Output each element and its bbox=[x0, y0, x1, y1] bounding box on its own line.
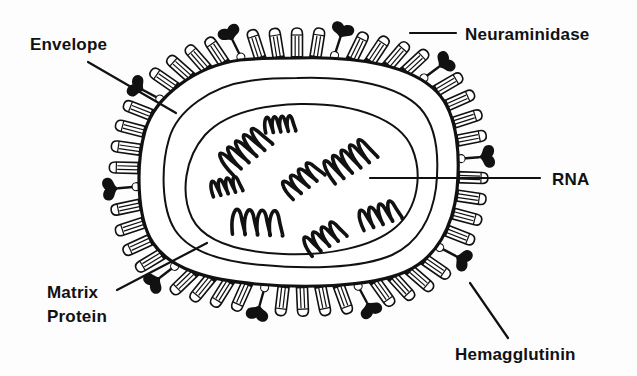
neuraminidase-spike bbox=[102, 175, 143, 201]
label-matrix-protein-line2: Protein bbox=[47, 307, 107, 326]
label-hemagglutinin: Hemagglutinin bbox=[455, 345, 576, 364]
label-rna: RNA bbox=[552, 170, 589, 189]
hemagglutinin-shading-line bbox=[117, 166, 140, 167]
neuraminidase-head bbox=[245, 301, 271, 323]
hemagglutinin-spike bbox=[295, 283, 309, 317]
neuraminidase-head bbox=[102, 177, 121, 201]
neuraminidase-head bbox=[477, 145, 495, 169]
hemagglutinin-shading-line bbox=[457, 175, 480, 176]
label-matrix-protein-line1: Matrix bbox=[47, 283, 99, 302]
hemagglutinin-shading-line bbox=[117, 169, 140, 170]
leader-line-hemagglutinin bbox=[470, 283, 508, 338]
neuraminidase-head bbox=[141, 268, 168, 296]
neuraminidase-spike bbox=[455, 145, 495, 171]
label-envelope: Envelope bbox=[30, 35, 107, 54]
hemagglutinin-shading-line bbox=[457, 179, 480, 180]
neuraminidase-head bbox=[216, 22, 244, 47]
neuraminidase-head bbox=[449, 245, 474, 273]
hemagglutinin-rod bbox=[292, 28, 303, 60]
hemagglutinin-rod bbox=[296, 284, 308, 316]
neuraminidase-head bbox=[431, 49, 458, 77]
hemagglutinin-spike bbox=[291, 28, 304, 61]
neuraminidase-head bbox=[356, 296, 384, 321]
hemagglutinin-rod bbox=[109, 162, 141, 174]
label-neuraminidase: Neuraminidase bbox=[465, 25, 589, 44]
neuraminidase-head bbox=[329, 20, 356, 43]
influenza-virus-diagram: Envelope Neuraminidase RNA Matrix Protei… bbox=[0, 0, 637, 376]
